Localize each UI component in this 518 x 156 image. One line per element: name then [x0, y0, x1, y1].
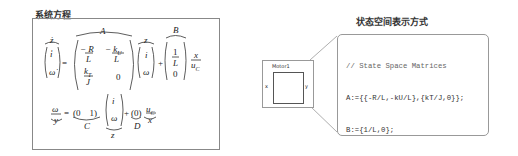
b1-den: L: [173, 58, 178, 68]
equals-sign: =: [62, 58, 67, 68]
code-line: A:={{-R/L,-kU/L},{kT/J,0}};: [346, 93, 464, 104]
z2-top: i: [112, 96, 115, 106]
lhs-bottom: ω̇: [49, 67, 55, 77]
plus-sign-2: +: [124, 108, 129, 118]
code-block: // State Space Matrices A:={{-R/L,-kU/L}…: [346, 40, 464, 156]
c-row: (0 1): [73, 108, 97, 118]
d-matrix: (0): [131, 108, 142, 118]
a21-den: J: [86, 77, 90, 87]
xdot-label: ż: [50, 35, 54, 45]
C-label: C: [84, 121, 90, 131]
code-line: B:={1/L,0};: [346, 125, 464, 136]
input-port-label: x: [265, 83, 268, 89]
x-label: x: [194, 50, 198, 60]
a11: − R: [80, 44, 94, 54]
lhs-top: i̇: [50, 49, 53, 59]
b2: 0: [173, 69, 178, 79]
omega-out: ω: [52, 104, 58, 114]
a12-den: L: [114, 54, 119, 64]
a22: 0: [116, 72, 121, 82]
z2-label: z: [111, 130, 115, 140]
b1-num: 1: [173, 47, 178, 57]
motor-label: Motor1: [272, 63, 290, 69]
equals-sign-2: =: [64, 108, 69, 118]
a11-den: L: [86, 54, 91, 64]
code-line: // State Space Matrices: [346, 61, 464, 72]
z-bottom: ω: [143, 67, 149, 77]
D-label: D: [134, 121, 141, 131]
B-label: B: [173, 25, 179, 35]
A-label: A: [100, 26, 106, 36]
x2-label: x: [148, 115, 152, 125]
z-top: i: [145, 50, 148, 60]
motor-block[interactable]: Motor1 x y: [262, 60, 314, 108]
motor-body: [273, 72, 304, 104]
plus-sign: +: [158, 58, 163, 68]
uc-input: uC: [191, 60, 200, 72]
modelica-code-box: // State Space Matrices A:={{-R/L,-kU/L}…: [337, 34, 489, 136]
z-label: z: [144, 35, 148, 45]
y-label: y: [54, 115, 58, 125]
output-port-label: y: [305, 83, 308, 89]
z2-bottom: ω: [111, 113, 117, 123]
